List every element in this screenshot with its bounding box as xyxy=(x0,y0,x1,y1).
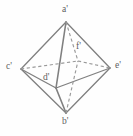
vertex-label-d: d' xyxy=(43,73,49,83)
edge-a-d xyxy=(56,22,66,88)
vertex-label-a: a' xyxy=(62,5,68,15)
vertex-label-f: f' xyxy=(76,42,81,52)
vertex-label-b: b' xyxy=(62,117,68,127)
vertex-label-c: c' xyxy=(6,62,12,72)
vertex-label-e: e' xyxy=(115,61,121,71)
edge-c-d xyxy=(21,69,56,88)
hidden-edges xyxy=(21,22,110,113)
edge-c-f xyxy=(21,61,78,69)
octahedron-figure: a' f' c' e' d' b' xyxy=(0,0,133,136)
edge-d-e xyxy=(56,68,110,88)
edge-b-e xyxy=(66,68,110,113)
edge-b-f xyxy=(66,61,78,113)
edge-b-d xyxy=(56,88,66,113)
